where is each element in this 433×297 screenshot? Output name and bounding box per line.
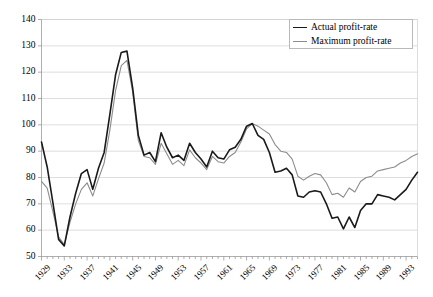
chart-legend: Actual profit-rate Maximum profit-rate xyxy=(289,19,413,49)
legend-label-actual: Actual profit-rate xyxy=(311,22,377,32)
legend-label-maximum: Maximum profit-rate xyxy=(311,36,391,46)
y-tick-label: 130 xyxy=(8,40,36,50)
y-tick-label: 140 xyxy=(8,14,36,24)
legend-item-maximum: Maximum profit-rate xyxy=(293,34,412,48)
y-tick-label: 80 xyxy=(8,172,36,182)
y-tick-label: 100 xyxy=(8,119,36,129)
plot-frame xyxy=(42,20,418,257)
y-tick-label: 50 xyxy=(8,251,36,261)
legend-swatch-maximum xyxy=(293,41,307,42)
gridlines xyxy=(42,20,418,231)
y-tick-label: 70 xyxy=(8,198,36,208)
y-tick-label: 90 xyxy=(8,145,36,155)
y-tick-label: 120 xyxy=(8,66,36,76)
legend-swatch-actual xyxy=(293,27,307,28)
series-lines xyxy=(42,51,418,246)
legend-item-actual: Actual profit-rate xyxy=(293,20,412,34)
y-tick-label: 60 xyxy=(8,224,36,234)
y-tick-label: 110 xyxy=(8,93,36,103)
y-axis-ticks xyxy=(38,20,42,257)
profit-rate-line-chart: 5060708090100110120130140 19291933193719… xyxy=(0,0,433,297)
x-axis-ticks xyxy=(42,257,418,261)
